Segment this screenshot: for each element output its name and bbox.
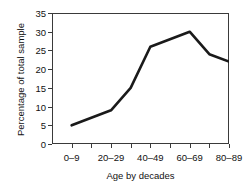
y-axis-tick-label: 35 bbox=[35, 8, 46, 19]
x-axis-tick-label: 60–69 bbox=[176, 152, 202, 163]
y-axis-tick bbox=[48, 125, 52, 126]
y-axis-tick-label: 5 bbox=[41, 120, 46, 131]
x-axis-tick-label: 0–9 bbox=[64, 152, 80, 163]
x-axis-tick bbox=[190, 144, 191, 148]
x-axis-tick bbox=[131, 144, 132, 148]
data-series-line bbox=[52, 13, 229, 144]
y-axis-tick bbox=[48, 32, 52, 33]
y-axis-tick-label: 30 bbox=[35, 26, 46, 37]
x-axis-tick bbox=[91, 144, 92, 148]
x-axis-tick bbox=[170, 144, 171, 148]
x-axis-tick bbox=[150, 144, 151, 148]
x-axis-tick-label: 20–29 bbox=[98, 152, 124, 163]
y-axis-tick bbox=[48, 107, 52, 108]
y-axis-tick bbox=[48, 69, 52, 70]
y-axis-tick bbox=[48, 13, 52, 14]
y-axis-tick-label: 15 bbox=[35, 82, 46, 93]
y-axis-tick bbox=[48, 88, 52, 89]
x-axis-tick-label: 40–49 bbox=[137, 152, 163, 163]
x-axis-tick bbox=[229, 144, 230, 148]
x-axis-tick bbox=[111, 144, 112, 148]
y-axis-tick bbox=[48, 144, 52, 145]
y-axis-tick-label: 25 bbox=[35, 45, 46, 56]
line-chart-figure: Percentage of total sample 0510152025303… bbox=[0, 0, 250, 189]
x-axis-tick bbox=[209, 144, 210, 148]
x-axis-label: Age by decades bbox=[52, 170, 229, 181]
plot-area: 051015202530350–920–2940–4960–6980–89 bbox=[52, 13, 229, 144]
y-axis-tick-label: 0 bbox=[41, 139, 46, 150]
y-axis-label: Percentage of total sample bbox=[14, 9, 28, 150]
x-axis-tick-label: 80–89 bbox=[216, 152, 242, 163]
y-axis-tick bbox=[48, 50, 52, 51]
y-axis-tick-label: 20 bbox=[35, 64, 46, 75]
x-axis-tick bbox=[72, 144, 73, 148]
y-axis-tick-label: 10 bbox=[35, 101, 46, 112]
